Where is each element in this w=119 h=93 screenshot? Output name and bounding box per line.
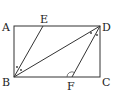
label-e: E [40,13,48,26]
segment-be [14,26,43,77]
segment-bd [14,26,100,77]
geometry-diagram: A E D B F C [0,0,119,93]
label-c: C [102,76,110,89]
label-f: F [67,80,75,93]
label-b: B [2,76,10,89]
segment-df [72,26,100,77]
label-d: D [102,21,111,34]
label-a: A [1,21,11,34]
